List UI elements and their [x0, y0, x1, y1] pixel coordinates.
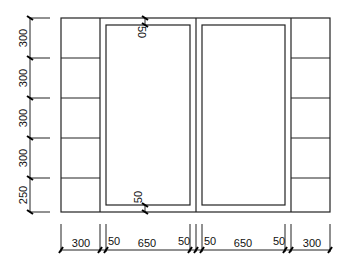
- hdim-2: 50: [108, 235, 120, 247]
- hdim-1: 300: [72, 237, 90, 249]
- vdim-3: 300: [17, 109, 29, 127]
- vdim-2: 300: [17, 69, 29, 87]
- right-inner-panel: [202, 25, 285, 205]
- vertical-dimension-chain: [27, 16, 50, 214]
- hdim-4: 50: [178, 235, 190, 247]
- hdim-8: 300: [303, 237, 321, 249]
- hdim-3: 650: [138, 237, 156, 249]
- top-offset-label: 50: [136, 26, 148, 38]
- horizontal-dimension-chain: [59, 224, 332, 253]
- hdim-6: 650: [234, 237, 252, 249]
- right-column-panels: [291, 58, 330, 178]
- vdim-5: 250: [17, 186, 29, 204]
- left-column-panels: [61, 58, 100, 178]
- elevation-drawing: 300 300 300 300 250 50 50 300: [0, 0, 347, 274]
- left-inner-panel: [106, 25, 190, 205]
- vdim-4: 300: [17, 149, 29, 167]
- hdim-5: 50: [204, 235, 216, 247]
- bottom-offset-label: 50: [132, 191, 144, 203]
- vdim-1: 300: [17, 29, 29, 47]
- hdim-7: 50: [273, 235, 285, 247]
